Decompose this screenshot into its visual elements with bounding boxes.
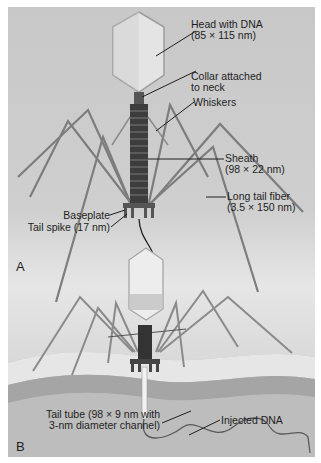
- panel-b-letter: B: [16, 439, 25, 454]
- label-collar: Collar attached to neck: [191, 71, 262, 93]
- label-collar-sub: to neck: [191, 82, 262, 93]
- panel-a-letter: A: [16, 259, 25, 274]
- phage-a-collar: [134, 92, 144, 104]
- label-fiber-size: (3.5 × 150 nm): [227, 202, 296, 213]
- label-tail-tube-sub: 3-nm diameter channel): [18, 420, 160, 431]
- label-baseplate: Baseplate: [48, 210, 110, 221]
- phage-figure: Head with DNA (85 × 115 nm) Collar attac…: [8, 7, 315, 457]
- label-head: Head with DNA (85 × 115 nm): [191, 19, 263, 41]
- label-tail-tube: Tail tube (98 × 9 nm with 3-nm diameter …: [18, 409, 160, 431]
- label-long-tail-fiber: Long tail fiber (3.5 × 150 nm): [227, 191, 296, 213]
- label-sheath-size: (98 × 22 nm): [225, 164, 285, 175]
- label-head-size: (85 × 115 nm): [191, 30, 263, 41]
- label-injected-dna: Injected DNA: [221, 415, 283, 426]
- label-sheath: Sheath (98 × 22 nm): [225, 153, 285, 175]
- phage-a-sheath: [130, 104, 148, 204]
- phage-a-baseplate: [123, 203, 155, 218]
- label-tail-spike: Tail spike (17 nm): [12, 222, 110, 233]
- label-whiskers: Whiskers: [193, 97, 236, 108]
- membrane: [8, 352, 315, 457]
- phage-b-sheath: [138, 325, 152, 363]
